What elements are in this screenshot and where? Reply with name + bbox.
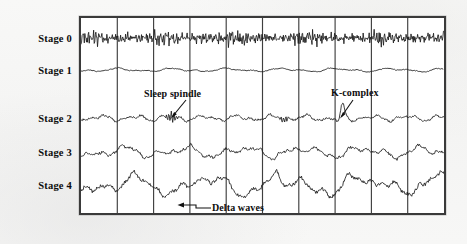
- eeg-plot-frame: [79, 16, 446, 215]
- eeg-trace-stage-0: [81, 29, 443, 47]
- stage-label-stage-4: Stage 4: [0, 180, 72, 191]
- stage-label-stage-3: Stage 3: [0, 147, 72, 158]
- eeg-trace-stage-3: [81, 143, 443, 160]
- annotation-k-complex: K-complex: [331, 87, 379, 98]
- stage-label-stage-1: Stage 1: [0, 65, 72, 76]
- stage-label-stage-2: Stage 2: [0, 113, 72, 124]
- sleep-stage-eeg-figure: Stage 0 Stage 1 Stage 2 Stage 3 Stage 4 …: [0, 0, 467, 244]
- annotation-delta-waves: Delta waves: [212, 202, 264, 213]
- annotation-sleep-spindle: Sleep spindle: [144, 88, 201, 99]
- eeg-trace-stage-2: [81, 103, 444, 122]
- eeg-trace-stage-4: [81, 169, 444, 198]
- stage-label-stage-0: Stage 0: [0, 33, 72, 44]
- eeg-traces: [81, 18, 444, 213]
- eeg-trace-stage-1: [81, 67, 443, 72]
